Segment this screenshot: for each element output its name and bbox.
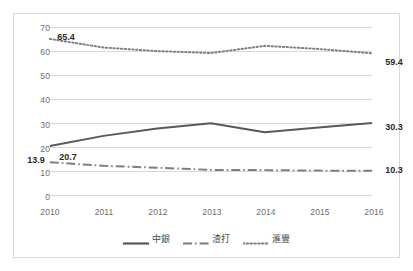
legend-swatch-icon — [243, 234, 269, 243]
legend-label: 中銀 — [152, 232, 170, 245]
legend-item-3[interactable]: 滙豐 — [243, 232, 290, 245]
legend-label: 渣打 — [212, 232, 230, 245]
plot-area: 706050403020100 201020112012201320142015… — [14, 14, 399, 257]
legend-item-2[interactable]: 渣打 — [183, 232, 230, 245]
legend-label: 滙豐 — [272, 232, 290, 245]
legend-swatch-icon — [183, 234, 209, 243]
legend-item-1[interactable]: 中銀 — [123, 232, 170, 245]
chart-container: 706050403020100 201020112012201320142015… — [13, 13, 400, 258]
series-line — [50, 39, 372, 53]
chart-legend: 中銀渣打滙豐 — [14, 232, 399, 245]
series-lines — [14, 14, 399, 257]
legend-swatch-icon — [123, 234, 149, 243]
series-line — [50, 123, 372, 146]
series-line — [50, 162, 372, 171]
